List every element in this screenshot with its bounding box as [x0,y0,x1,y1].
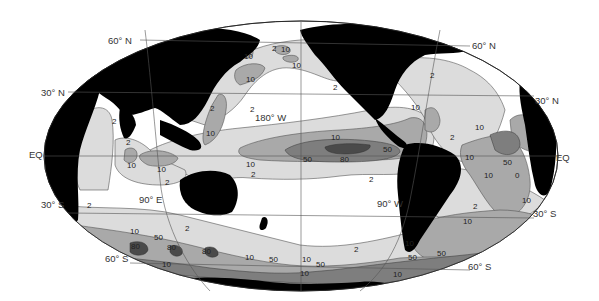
contour-label: 2 [87,201,92,210]
label-30n-right: 30° N [535,95,559,106]
label-30s-right: 30° S [533,208,556,219]
contour-label: 10 [463,217,472,226]
label-eq-left: EQ [29,149,43,160]
contour-label: 2 [430,71,435,80]
contour-label: 50 [503,158,512,167]
contour-label: 2 [333,83,338,92]
contour-label: 80 [340,155,349,164]
contour-label: 50 [303,155,312,164]
contour-label: 10 [162,260,171,269]
contour-label: 2 [126,138,131,147]
label-60s-right: 60° S [468,261,491,272]
contour-label: 2 [185,224,190,233]
contour-label: 50 [408,253,417,262]
contour-label: 2 [450,133,455,142]
label-90e: 90° E [139,194,162,205]
contour-label: 50 [269,255,278,264]
contour-label: 10 [300,269,309,278]
contour-label: 10 [393,270,402,279]
label-60n-right: 60° N [472,40,496,51]
contour-label: 10 [475,123,484,132]
contour-label: 10 [405,239,414,248]
contour-label: 80 [131,242,140,251]
label-30s-left: 30° S [41,199,64,210]
label-60n-left: 60° N [108,35,132,46]
contour-label: 10 [245,253,254,262]
label-30n-left: 30° N [41,87,65,98]
contour-label: 10 [127,161,136,170]
contour-label: 10 [411,103,420,112]
contour-label: 10 [206,129,215,138]
label-60s-left: 60° S [105,253,128,264]
label-90w: 90° W [377,198,403,209]
contour-label: 2 [369,175,374,184]
contour-label: 10 [157,165,166,174]
contour-label: 2 [473,202,478,211]
contour-label: 10 [281,45,290,54]
contour-label: 2 [272,44,277,53]
contour-label: 10 [130,227,139,236]
contour-label: 10 [292,61,301,70]
contour-label: 10 [302,255,311,264]
contour-label: 2 [250,105,255,114]
map-svg: 60° N 30° N EQ 30° S 60° S 60° N 30° N E… [0,0,599,301]
contour-label: 80 [167,243,176,252]
contour-label: 2 [165,178,170,187]
contour-label: 10 [522,196,531,205]
contour-label: 10 [246,75,255,84]
contour-label: 10 [244,52,253,61]
contour-label: 50 [154,233,163,242]
contour-label: 10 [246,160,255,169]
contour-label: 2 [210,104,215,113]
contour-label: 2 [112,117,117,126]
label-180w: 180° W [255,112,286,123]
label-eq-right: EQ [556,152,570,163]
contour-label: 10 [465,153,474,162]
contour-label: 10 [484,171,493,180]
contour-label: 50 [383,145,392,154]
contour-label: 80 [202,247,211,256]
contour-label: 50 [437,249,446,258]
world-map: 60° N 30° N EQ 30° S 60° S 60° N 30° N E… [0,0,599,301]
contour-label: 0 [515,171,520,180]
contour-label: 2 [354,245,359,254]
contour-label: 50 [316,260,325,269]
contour-label: 2 [251,170,256,179]
contour-label: 10 [331,133,340,142]
